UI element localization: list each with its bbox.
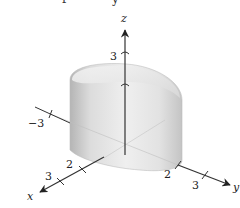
- cropped-glyph-y: y: [111, 0, 119, 6]
- neg-y-tick-label: −3: [28, 117, 44, 130]
- y-tick-label-3: 3: [192, 179, 199, 192]
- elliptic-cylinder-surface: [50, 64, 182, 171]
- z-axis-label: z: [120, 12, 127, 25]
- x-tick-label-3: 3: [45, 170, 52, 183]
- cropped-caption: f y: [62, 0, 119, 6]
- y-tick-label-2: 2: [164, 168, 171, 181]
- cropped-glyph-f: f: [62, 0, 68, 6]
- x-axis-label: x: [27, 190, 34, 203]
- z-tick-label-3: 3: [110, 50, 117, 63]
- neg-y-axis: −3: [28, 107, 70, 130]
- cylinder-figure: f y z 3 −3 2 3 x 2 3 y: [0, 0, 240, 208]
- y-axis-label: y: [232, 181, 240, 194]
- x-tick-label-2: 2: [66, 158, 73, 171]
- x-axis: 2 3 x: [27, 157, 104, 203]
